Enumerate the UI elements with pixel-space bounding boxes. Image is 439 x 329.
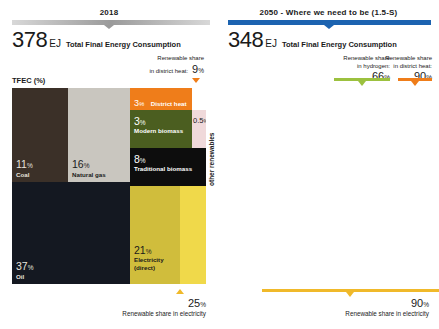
- annotation-brace-tip-hydrogen: [358, 81, 366, 86]
- tfec-caption-2018: Total Final Energy Consumption: [66, 40, 181, 49]
- cell-district-heat-value: 3%: [134, 98, 144, 108]
- annotation-line2: in district heat:: [149, 68, 188, 74]
- bottom-annotation-2050: 90% Renewable share in electricity: [279, 296, 429, 318]
- axis-label-tfec: TFEC (%): [12, 76, 45, 85]
- cell-natural-gas-name: Natural gas: [72, 171, 106, 178]
- cell-other-renewables-2018[interactable]: 0.5%: [192, 110, 206, 148]
- cell-natural-gas-value: 16%: [72, 158, 106, 170]
- cell-traditional-biomass-2018[interactable]: 8% Traditional biomass: [130, 148, 206, 186]
- cell-electricity-direct-sub: (direct): [134, 264, 164, 271]
- cell-oil-name: Oil: [16, 273, 33, 280]
- cell-electricity-direct-value: 21%: [134, 244, 164, 256]
- cell-electricity-direct-2018[interactable]: 21% Electricity (direct): [130, 186, 180, 284]
- cell-traditional-biomass-value: 8%: [134, 153, 192, 165]
- annotation-heat-line1: Renewable share: [385, 55, 432, 61]
- annotation-brace-tip-heat: [411, 81, 419, 86]
- panel-2018: 2018 378 EJ Total Final Energy Consumpti…: [0, 0, 218, 329]
- bottom-annotation-2018: 25% Renewable share in electricity: [66, 296, 206, 318]
- bottom-symbol-2050: %: [423, 301, 429, 308]
- bottom-value-2050: 90: [411, 297, 423, 309]
- tfec-caption-2050: Total Final Energy Consumption: [282, 40, 397, 49]
- bottom-symbol-2018: %: [200, 301, 206, 308]
- cell-electricity-renewable-2018[interactable]: [180, 186, 206, 284]
- cell-traditional-biomass-name: Traditional biomass: [134, 165, 192, 172]
- cell-electricity-direct-name: Electricity: [134, 256, 164, 263]
- annotation-line1: Renewable share: [157, 55, 204, 61]
- chart-2018: 11% Coal 16% Natural gas 3% District hea…: [12, 88, 206, 284]
- tfec-total-2018: 378 EJ Total Final Energy Consumption: [12, 29, 181, 51]
- annotation-district-heat-2018: Renewable share in district heat:9%: [94, 55, 204, 76]
- bottom-caption-2050: Renewable share in electricity: [345, 310, 429, 317]
- annotation-arrow-district-heat-2018: [192, 78, 200, 83]
- bottom-value-2018: 25: [188, 297, 200, 309]
- tfec-number-2050: 348: [228, 29, 263, 51]
- tfec-total-2050: 348 EJ Total Final Energy Consumption: [228, 29, 397, 51]
- cell-modern-biomass-2018[interactable]: 3% Modern biomass: [130, 110, 192, 148]
- tfec-unit-2050: EJ: [265, 38, 277, 49]
- era-label-2018: 2018: [0, 8, 218, 17]
- annotation-heat-line2: in district heat:: [393, 63, 432, 69]
- cell-coal-value: 11%: [16, 158, 33, 170]
- cell-modern-biomass-value: 3%: [134, 115, 183, 127]
- cell-district-heat-2018[interactable]: 3% District heat: [130, 88, 192, 110]
- panel-2050: 2050 - Where we need to be (1.5-S) 348 E…: [218, 0, 439, 329]
- cell-natural-gas-2018[interactable]: 16% Natural gas: [68, 88, 130, 182]
- cell-oil-value: 37%: [16, 260, 33, 272]
- cell-modern-biomass-name: Modern biomass: [134, 127, 183, 134]
- bottom-caption-2018: Renewable share in electricity: [122, 310, 206, 317]
- cell-coal-2018[interactable]: 11% Coal: [12, 88, 68, 182]
- cell-other-renewables-value: 0.5: [193, 116, 203, 125]
- tfec-number-2018: 378: [12, 29, 47, 51]
- era-label-2050: 2050 - Where we need to be (1.5-S): [218, 8, 439, 17]
- cell-oil-2018[interactable]: 37% Oil: [12, 182, 130, 284]
- cell-district-heat-name: District heat: [151, 100, 187, 107]
- annotation-symbol: %: [198, 67, 204, 74]
- bottom-arrow-tip-2018: [176, 289, 184, 294]
- side-label-other-renewables: other renewables: [208, 106, 215, 186]
- cell-coal-name: Coal: [16, 171, 33, 178]
- tfec-unit-2018: EJ: [49, 38, 61, 49]
